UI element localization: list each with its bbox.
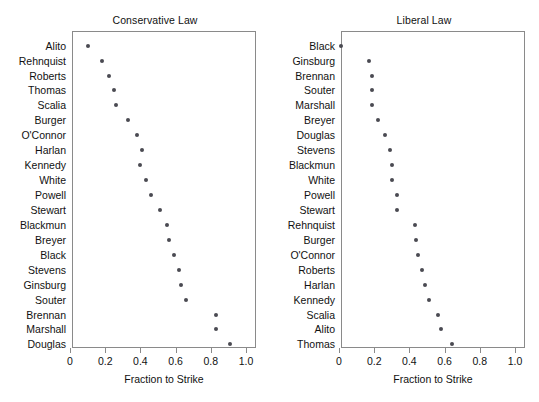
x-axis-title: Fraction to Strike [341, 373, 525, 385]
category-label: Souter [35, 294, 66, 305]
x-axis-tick [374, 348, 375, 353]
category-label: Souter [304, 85, 335, 96]
category-label: Black [309, 40, 335, 51]
category-label: Kennedy [294, 294, 335, 305]
x-axis-tick-label: 0.6 [168, 355, 183, 367]
data-point [388, 148, 392, 152]
category-label: Rehnquist [19, 55, 66, 66]
category-label: O'Connor [21, 130, 66, 141]
category-label: Stewart [299, 204, 335, 215]
x-axis-tick-label: 0.2 [98, 355, 113, 367]
category-axis-labels: AlitoRehnquistRobertsThomasScaliaBurgerO… [0, 31, 70, 348]
x-axis-title: Fraction to Strike [72, 373, 256, 385]
data-point [420, 268, 424, 272]
x-axis-tick [246, 348, 247, 353]
x-axis-tick-label: 1.0 [239, 355, 254, 367]
category-label: Powell [35, 190, 66, 201]
data-point [427, 298, 431, 302]
data-point [390, 178, 394, 182]
data-point [413, 223, 417, 227]
x-axis-tick [70, 348, 71, 353]
category-label: Rehnquist [288, 219, 335, 230]
data-point [367, 59, 371, 63]
category-label: White [308, 175, 335, 186]
x-axis-tick [211, 348, 212, 353]
data-point [149, 193, 153, 197]
data-point [370, 74, 374, 78]
data-point [184, 298, 188, 302]
x-axis-tick [176, 348, 177, 353]
category-label: Powell [304, 190, 335, 201]
category-label: Stevens [28, 264, 66, 275]
category-label: Burger [34, 115, 66, 126]
x-axis-tick [339, 348, 340, 353]
data-point [107, 74, 111, 78]
data-point [376, 118, 380, 122]
x-axis-tick [445, 348, 446, 353]
data-point [167, 238, 171, 242]
x-axis-tick-label: 0 [67, 355, 73, 367]
plot-frame [72, 31, 256, 348]
x-axis-tick [515, 348, 516, 353]
data-point [86, 44, 90, 48]
category-label: Stewart [30, 204, 66, 215]
data-point [214, 313, 218, 317]
data-point [383, 133, 387, 137]
panel-title: Conservative Law [20, 14, 290, 26]
x-axis-tick [105, 348, 106, 353]
x-axis-tick-label: 0.4 [402, 355, 417, 367]
data-point [450, 342, 454, 346]
x-axis-tick-label: 0.8 [472, 355, 487, 367]
category-label: Ginsburg [23, 279, 66, 290]
category-label: Blackmun [20, 219, 66, 230]
data-point [339, 44, 343, 48]
category-label: Black [40, 249, 66, 260]
category-axis-labels: BlackGinsburgBrennanSouterMarshallBreyer… [269, 31, 339, 348]
data-point [158, 208, 162, 212]
panel-title: Liberal Law [289, 14, 539, 26]
panel-conservative-law: Conservative Law AlitoRehnquistRobertsTh… [0, 0, 270, 402]
category-label: Harlan [304, 279, 335, 290]
plot-frame [341, 31, 525, 348]
x-axis-tick-label: 0.6 [437, 355, 452, 367]
category-label: O'Connor [290, 249, 335, 260]
data-point [214, 327, 218, 331]
category-label: Blackmun [289, 160, 335, 171]
data-point [112, 88, 116, 92]
category-label: Roberts [298, 264, 335, 275]
category-label: Ginsburg [292, 55, 335, 66]
data-point [138, 163, 142, 167]
data-point [436, 313, 440, 317]
data-point [414, 238, 418, 242]
category-label: White [39, 175, 66, 186]
category-label: Breyer [35, 234, 66, 245]
data-point [100, 59, 104, 63]
data-point [126, 118, 130, 122]
data-point [423, 283, 427, 287]
category-label: Thomas [297, 339, 335, 350]
category-label: Brennan [295, 70, 335, 81]
x-axis-tick [409, 348, 410, 353]
category-label: Alito [46, 40, 66, 51]
data-point [114, 103, 118, 107]
data-point [416, 253, 420, 257]
category-label: Kennedy [25, 160, 66, 171]
panel-liberal-law: Liberal Law BlackGinsburgBrennanSouterMa… [269, 0, 539, 402]
x-axis-tick-label: 0.2 [367, 355, 382, 367]
data-point [439, 327, 443, 331]
data-point [395, 193, 399, 197]
category-label: Burger [303, 234, 335, 245]
category-label: Stevens [297, 145, 335, 156]
x-axis-tick-label: 0.4 [133, 355, 148, 367]
data-point [165, 223, 169, 227]
data-point [177, 268, 181, 272]
x-axis-tick [480, 348, 481, 353]
category-label: Scalia [306, 309, 335, 320]
category-label: Breyer [304, 115, 335, 126]
category-label: Marshall [26, 324, 66, 335]
category-label: Alito [315, 324, 335, 335]
dotplot-figure: Conservative Law AlitoRehnquistRobertsTh… [0, 0, 539, 402]
data-point [172, 253, 176, 257]
data-point [370, 103, 374, 107]
data-point [228, 342, 232, 346]
